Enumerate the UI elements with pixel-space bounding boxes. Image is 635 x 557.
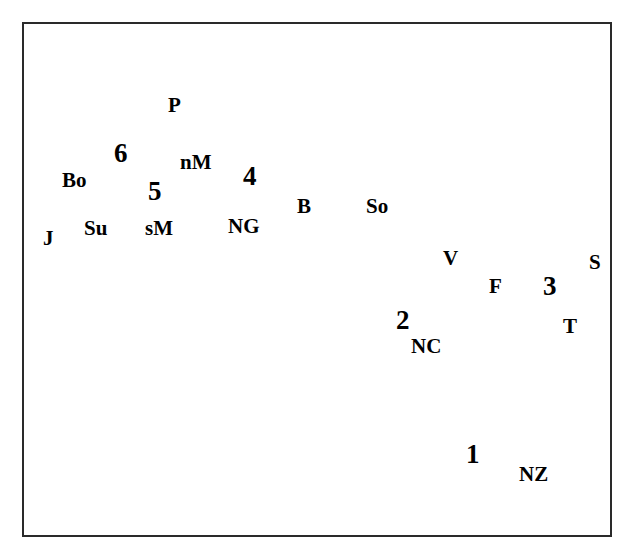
map-label-1: 1 xyxy=(466,441,480,468)
map-label-NG: NG xyxy=(228,216,260,237)
map-label-Su: Su xyxy=(84,218,107,239)
map-border xyxy=(22,22,612,537)
map-label-sM: sM xyxy=(145,218,173,239)
map-label-NC: NC xyxy=(411,336,441,357)
map-label-So: So xyxy=(366,196,388,217)
map-label-NZ: NZ xyxy=(519,464,548,485)
map-label-T: T xyxy=(563,316,577,337)
map-label-Bo: Bo xyxy=(62,170,87,191)
map-label-B: B xyxy=(297,196,311,217)
map-label-4: 4 xyxy=(243,163,257,190)
map-label-S: S xyxy=(589,252,601,273)
map-label-6: 6 xyxy=(114,140,128,167)
map-label-5: 5 xyxy=(148,178,162,205)
map-label-F: F xyxy=(489,276,502,297)
map-label-2: 2 xyxy=(396,307,410,334)
map-label-3: 3 xyxy=(543,273,557,300)
map-label-J: J xyxy=(43,228,54,249)
map-label-P: P xyxy=(168,95,181,116)
map-label-nM: nM xyxy=(180,152,212,173)
map-figure: P 6 Bo nM 5 4 Su sM J NG B So V F 3 S T … xyxy=(0,0,635,557)
map-label-V: V xyxy=(443,248,458,269)
